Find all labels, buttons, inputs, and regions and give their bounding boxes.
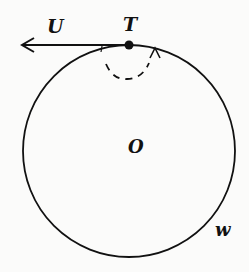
circle-tangent-diagram: U T O w — [0, 0, 249, 272]
label-w: w — [215, 219, 232, 240]
diagram-canvas: U T O w — [0, 0, 249, 272]
label-t: T — [123, 13, 139, 35]
label-u: U — [47, 15, 65, 37]
tick-mark — [101, 46, 102, 52]
dashed-angle-arc — [106, 63, 149, 79]
label-o: O — [128, 136, 144, 157]
point-t — [125, 41, 134, 50]
